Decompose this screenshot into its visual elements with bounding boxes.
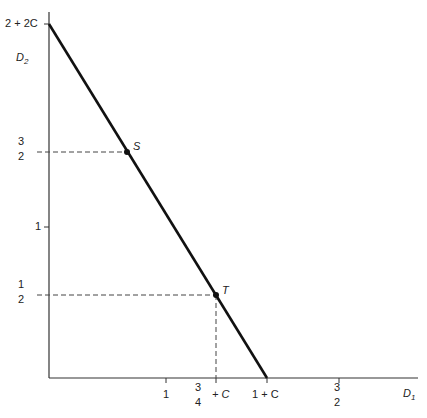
x-axis-label: D1	[403, 388, 415, 402]
y-axis-label-main: D	[16, 51, 24, 63]
x-axis-label-main: D	[403, 387, 411, 399]
y-tick-label-2-plus-2c: 2 + 2C	[5, 18, 38, 29]
fraction-numerator: 3	[195, 382, 201, 395]
fraction-denominator: 2	[18, 149, 24, 162]
y-axis-label-sub: 2	[24, 57, 28, 66]
x-tick-label-1: 1	[163, 389, 169, 400]
fraction-numerator: 1	[18, 279, 24, 292]
x-tick-label-3-4: 3 4	[195, 382, 201, 408]
fraction-denominator: 4	[195, 395, 201, 408]
fraction-denominator: 2	[18, 292, 24, 305]
x-tick-label-1-plus-c: 1 + C	[252, 389, 279, 400]
point-s	[124, 149, 130, 155]
fraction-denominator: 2	[334, 395, 340, 408]
point-label-s: S	[133, 141, 140, 152]
fraction-numerator: 3	[18, 136, 24, 149]
constraint-line	[49, 24, 267, 378]
y-tick-label-1: 1	[35, 221, 41, 232]
y-tick-label-1-2: 1 2	[18, 279, 24, 305]
x-axis-label-sub: 1	[411, 393, 415, 402]
point-label-t: T	[222, 285, 229, 296]
y-axis-label: D2	[16, 52, 28, 66]
point-t	[213, 292, 219, 298]
diagram-canvas	[0, 0, 427, 418]
x-tick-label-plus-c: + C	[212, 389, 229, 400]
fraction-numerator: 3	[334, 382, 340, 395]
x-tick-label-3-2: 3 2	[334, 382, 340, 408]
y-tick-label-3-2: 3 2	[18, 136, 24, 162]
